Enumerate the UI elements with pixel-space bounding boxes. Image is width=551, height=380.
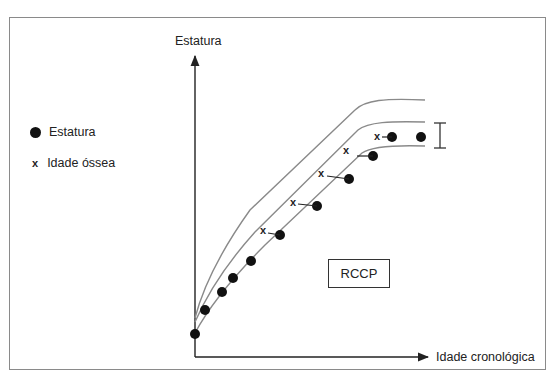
svg-text:x: x: [260, 224, 267, 236]
y-axis-label: Estatura: [175, 34, 222, 48]
rccp-box: RCCP: [328, 259, 390, 288]
target-range-bracket: [434, 123, 446, 148]
legend-label: Idade óssea: [47, 156, 115, 170]
upper-curve: [195, 99, 425, 318]
x-mark-icon: x: [32, 157, 38, 169]
svg-text:x: x: [343, 144, 350, 156]
lower-curve: [195, 146, 425, 333]
legend-item-height: Estatura: [30, 125, 96, 139]
x-axis-label: Idade cronológica: [436, 350, 535, 364]
legend-item-bone-age: x Idade óssea: [30, 156, 115, 170]
growth-chart: x x x x x: [0, 0, 551, 380]
height-points: [190, 132, 426, 339]
filled-circle-icon: [30, 127, 41, 138]
svg-text:x: x: [374, 130, 381, 142]
svg-text:x: x: [318, 167, 325, 179]
middle-curve: [195, 122, 425, 322]
legend-label: Estatura: [49, 125, 96, 139]
svg-text:x: x: [290, 196, 297, 208]
